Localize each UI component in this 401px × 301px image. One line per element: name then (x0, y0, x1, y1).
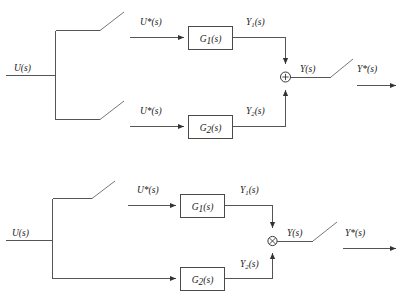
bottom-diagram: U(s) U*(s) G1(s) G2(s) Y1(s) Y2(s) Y(s) … (6, 181, 396, 291)
figure-canvas: U(s) U*(s) U*(s) G1(s) G2(s) Y1(s) Y2(s)… (0, 0, 401, 301)
top-diagram: U(s) U*(s) U*(s) G1(s) G2(s) Y1(s) Y2(s)… (6, 12, 396, 139)
bottom-output-switch-blade[interactable] (313, 222, 337, 241)
top-g2-input-label: U*(s) (140, 106, 162, 117)
bottom-y1-label: Y1(s) (240, 185, 259, 196)
bottom-g1-input-label: U*(s) (137, 185, 159, 196)
block-diagram-svg: U(s) U*(s) U*(s) G1(s) G2(s) Y1(s) Y2(s)… (0, 0, 401, 301)
bottom-y2-label: Y2(s) (240, 259, 259, 270)
top-output-switch-blade[interactable] (331, 59, 353, 77)
top-y1-label: Y1(s) (246, 17, 265, 28)
top-input-label: U(s) (14, 63, 31, 74)
top-sum-output-label: Y(s) (300, 64, 315, 75)
bottom-input-label: U(s) (12, 228, 29, 239)
top-lower-switch-blade[interactable] (100, 101, 124, 120)
bottom-sampled-output-label: Y*(s) (345, 228, 365, 239)
top-y2-label: Y2(s) (246, 106, 265, 117)
top-g1-input-label: U*(s) (140, 17, 162, 28)
top-upper-switch-blade[interactable] (100, 12, 124, 31)
bottom-sum-output-label: Y(s) (287, 228, 302, 239)
top-sampled-output-label: Y*(s) (357, 64, 377, 75)
bottom-upper-switch-blade[interactable] (92, 181, 115, 199)
